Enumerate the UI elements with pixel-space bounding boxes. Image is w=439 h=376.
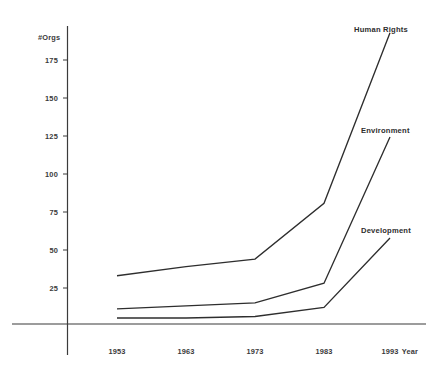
series-label-environment: Environment	[361, 126, 410, 135]
y-tick-label-50: 50	[49, 246, 58, 255]
series-label-human-rights: Human Rights	[354, 25, 408, 34]
x-axis-title: Year	[402, 347, 418, 356]
y-tick-label-25: 25	[49, 284, 58, 293]
x-tick-label-1973: 1973	[246, 347, 263, 356]
x-tick-label-1993: 1993	[381, 347, 398, 356]
y-tick-label-125: 125	[45, 132, 58, 141]
y-tick-marks	[63, 60, 68, 288]
y-tick-label-75: 75	[49, 208, 58, 217]
y-tick-label-100: 100	[45, 170, 58, 179]
series-line-development	[117, 238, 390, 318]
series-line-environment	[117, 137, 390, 309]
x-tick-label-1983: 1983	[315, 347, 332, 356]
x-tick-label-1963: 1963	[177, 347, 194, 356]
y-tick-label-175: 175	[45, 56, 58, 65]
series-line-human-rights	[117, 33, 390, 276]
line-chart: #Orgs 175 150 125 100 75 50 25 1953 1963…	[0, 0, 439, 376]
y-axis-title: #Orgs	[38, 33, 60, 42]
chart-canvas: #Orgs 175 150 125 100 75 50 25 1953 1963…	[0, 0, 439, 376]
series-label-development: Development	[361, 226, 411, 235]
y-tick-label-150: 150	[45, 94, 58, 103]
x-tick-label-1953: 1953	[108, 347, 125, 356]
